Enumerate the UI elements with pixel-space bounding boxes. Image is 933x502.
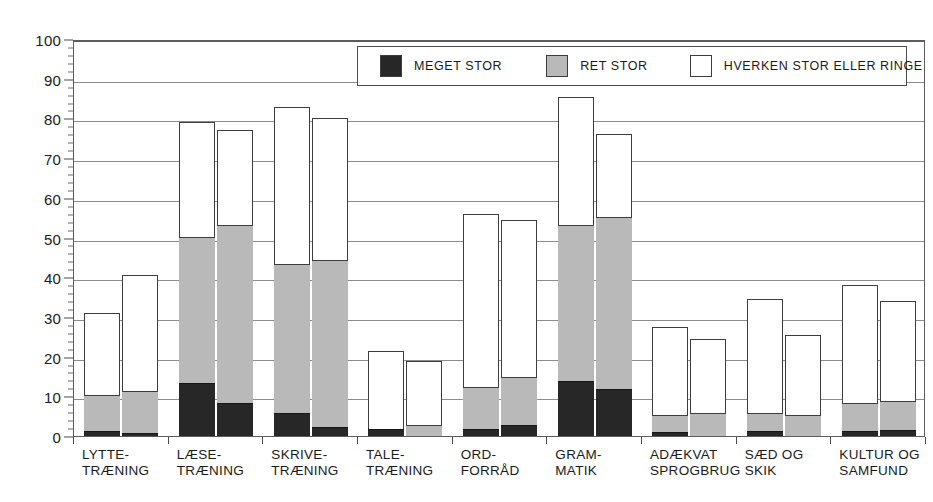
x-axis-label-line: LYTTE- <box>82 447 149 463</box>
bar-cat6-series2 <box>690 339 726 436</box>
legend-label-ret-stor: RET STOR <box>580 59 648 73</box>
x-axis-label-line: ORD- <box>461 447 520 463</box>
x-axis-label-line: TRÆNING <box>366 463 433 479</box>
y-axis-major-tick <box>64 238 73 239</box>
bar-cat0-series2 <box>122 275 158 436</box>
y-axis-major-tick <box>64 159 73 160</box>
x-axis-label-line: SKIK <box>745 463 804 479</box>
y-axis-tick-label: 90 <box>44 71 61 88</box>
x-axis-tick <box>546 437 547 444</box>
legend-item-meget-stor: MEGET STOR <box>380 47 502 85</box>
x-axis-label: TALE-TRÆNING <box>366 447 433 478</box>
segment-meget-stor <box>84 431 120 436</box>
bar-cat4-series1 <box>463 214 499 436</box>
legend-swatch-meget-stor <box>380 55 402 77</box>
x-axis-tick <box>925 437 926 444</box>
bar-cat5-series1 <box>558 97 594 436</box>
segment-meget-stor <box>558 381 594 436</box>
segment-meget-stor <box>274 413 310 436</box>
x-axis-label-line: TRÆNING <box>271 463 338 479</box>
x-axis-label-line: SÆD OG <box>745 447 804 463</box>
x-axis-tick <box>830 437 831 444</box>
segment-meget-stor <box>842 431 878 436</box>
y-axis-major-tick <box>64 119 73 120</box>
segment-ret-stor <box>84 395 120 436</box>
x-axis-tick <box>168 437 169 444</box>
x-axis-label-line: TRÆNING <box>82 463 149 479</box>
segment-meget-stor <box>122 433 158 436</box>
legend-swatch-ret-stor <box>546 55 568 77</box>
segment-meget-stor <box>463 429 499 436</box>
x-axis-label-line: SPROGBRUG <box>650 463 740 479</box>
x-axis-tick <box>736 437 737 444</box>
legend-item-hverken-stor-eller-ringe: HVERKEN STOR ELLER RINGE <box>690 47 923 85</box>
x-axis-label: SKRIVE-TRÆNING <box>271 447 338 478</box>
bar-cat0-series1 <box>84 313 120 436</box>
segment-ret-stor <box>274 264 310 436</box>
x-axis-label-line: ADÆKVAT <box>650 447 740 463</box>
x-axis-label: ADÆKVATSPROGBRUG <box>650 447 740 478</box>
bar-cat7-series1 <box>747 299 783 436</box>
bar-cat2-series2 <box>312 118 348 436</box>
x-axis-label: LYTTE-TRÆNING <box>82 447 149 478</box>
x-axis-label: GRAM-MATIK <box>555 447 602 478</box>
bar-cat8-series2 <box>880 301 916 436</box>
x-axis-tick <box>641 437 642 444</box>
x-axis-tick <box>262 437 263 444</box>
y-axis-tick-label: 10 <box>44 389 61 406</box>
y-axis-tick-label: 100 <box>35 32 61 49</box>
bar-cat3-series1 <box>368 351 404 436</box>
x-axis-tick <box>452 437 453 444</box>
segment-ret-stor <box>406 425 442 436</box>
y-axis-tick-label: 60 <box>44 190 61 207</box>
segment-ret-stor <box>690 413 726 436</box>
bar-cat1-series1 <box>179 122 215 436</box>
x-axis-label-line: SAMFUND <box>839 463 919 479</box>
segment-meget-stor <box>179 383 215 436</box>
y-axis-major-tick <box>64 40 73 41</box>
legend-swatch-hverken-stor-eller-ringe <box>690 55 712 77</box>
x-axis-label-line: TRÆNING <box>177 463 244 479</box>
bar-cat5-series2 <box>596 134 632 436</box>
x-axis: LYTTE-TRÆNINGLÆSE-TRÆNINGSKRIVE-TRÆNINGT… <box>0 437 933 502</box>
y-axis-tick-label: 20 <box>44 349 61 366</box>
x-axis-label-line: SKRIVE- <box>271 447 338 463</box>
x-axis-label-line: MATIK <box>555 463 602 479</box>
x-axis-label: SÆD OGSKIK <box>745 447 804 478</box>
x-axis-tick <box>73 437 74 444</box>
legend-label-meget-stor: MEGET STOR <box>414 59 502 73</box>
legend-label-hverken-stor-eller-ringe: HVERKEN STOR ELLER RINGE <box>724 59 923 73</box>
bar-cat4-series2 <box>501 220 537 436</box>
y-axis-major-tick <box>64 397 73 398</box>
segment-ret-stor <box>122 391 158 436</box>
y-axis-tick-label: 80 <box>44 111 61 128</box>
y-axis-major-tick <box>64 278 73 279</box>
segment-meget-stor <box>217 403 253 436</box>
bar-cat1-series2 <box>217 130 253 436</box>
y-axis-tick-label: 40 <box>44 270 61 287</box>
y-axis-major-tick <box>64 198 73 199</box>
x-axis-tick <box>357 437 358 444</box>
bar-cat6-series1 <box>652 327 688 436</box>
segment-ret-stor <box>312 260 348 436</box>
bar-cat7-series2 <box>785 335 821 436</box>
segment-meget-stor <box>880 430 916 436</box>
x-axis-label-line: GRAM- <box>555 447 602 463</box>
segment-meget-stor <box>501 425 537 436</box>
bar-cat2-series1 <box>274 107 310 437</box>
bar-cat3-series2 <box>406 361 442 436</box>
y-axis: 0102030405060708090100 <box>0 0 73 502</box>
segment-meget-stor <box>596 389 632 436</box>
segment-ret-stor <box>785 415 821 436</box>
y-axis-major-tick <box>64 317 73 318</box>
segment-meget-stor <box>747 431 783 436</box>
plot-area <box>73 40 925 437</box>
segment-meget-stor <box>368 429 404 436</box>
y-axis-tick-label: 70 <box>44 151 61 168</box>
x-axis-label: LÆSE-TRÆNING <box>177 447 244 478</box>
x-axis-label-line: KULTUR OG <box>839 447 919 463</box>
segment-meget-stor <box>312 427 348 436</box>
y-axis-tick-label: 30 <box>44 309 61 326</box>
x-axis-label-line: TALE- <box>366 447 433 463</box>
legend-item-ret-stor: RET STOR <box>546 47 648 85</box>
